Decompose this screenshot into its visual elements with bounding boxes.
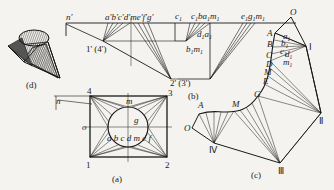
label-O-top: O (290, 7, 297, 17)
label-B: B (267, 39, 273, 49)
panel-a-caption: (a) (112, 174, 122, 184)
panel-d-caption: (d) (26, 80, 37, 90)
panel-b-caption: (b) (188, 91, 199, 101)
label-corner-1: 1 (86, 160, 91, 170)
label-circle-points: a b c d m e f (107, 133, 152, 143)
label-c1-b-a1-m1: c1ba1m1 (191, 11, 220, 22)
label-g: g (134, 115, 139, 125)
label-IV: Ⅳ (209, 145, 218, 155)
label-corner-3: 3 (168, 88, 173, 98)
panel-d-3d-view: (d) (8, 30, 60, 90)
panel-b-labels: n' a'b'c'd'me'f'g' 1' (4') 2' (3') (b) c… (66, 11, 265, 101)
transition-piece-diagram: (d) (0, 0, 334, 190)
panel-a-top-view (54, 93, 172, 162)
label-m: m (126, 96, 133, 106)
label-b1-m1: b1m1 (186, 44, 203, 55)
label-E: E (262, 76, 269, 86)
label-c1: c1 (175, 11, 182, 22)
label-top-points: a'b'c'd'me'f'g' (105, 12, 155, 22)
label-A: A (266, 28, 273, 38)
label-n-prime: n' (66, 12, 74, 22)
label-M-lower: M (231, 99, 240, 109)
label-G: G (254, 89, 261, 99)
label-O-lower: O (184, 123, 191, 133)
label-o: o (82, 122, 87, 132)
panel-a-labels: n o m g a b c d m e f 1 2 3 4 (a) (56, 86, 173, 184)
label-I: Ⅰ (309, 42, 312, 52)
label-1-4-prime: 1' (4') (86, 44, 107, 54)
label-n: n (56, 96, 61, 106)
label-A-lower: A (197, 100, 204, 110)
label-corner-4: 4 (87, 86, 92, 96)
panel-c-caption: (c) (251, 170, 261, 180)
label-III: Ⅲ (278, 166, 284, 176)
label-II: Ⅱ (319, 116, 323, 126)
label-corner-2: 2 (165, 160, 170, 170)
label-2-3-prime: 2' (3') (170, 78, 191, 88)
label-e1-g1-m1: e1g1m1 (241, 11, 265, 22)
